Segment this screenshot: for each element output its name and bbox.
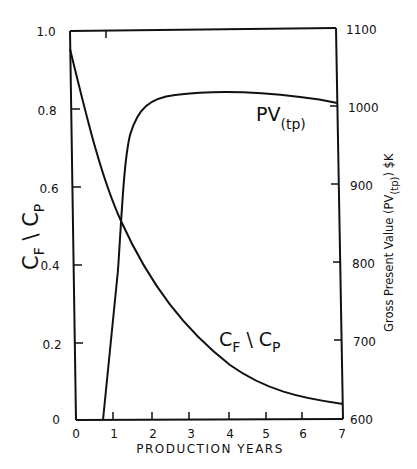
x-tick-label: 2 — [149, 427, 157, 441]
y-right-tick-label: 800 — [352, 257, 375, 271]
x-axis-title: PRODUCTION YEARS — [136, 442, 284, 456]
y-left-tick-label: 0.6 — [39, 182, 58, 196]
top-axis — [70, 28, 336, 31]
y-right-tick-labels: 600 700 800 900 1000 1100 — [346, 23, 379, 427]
x-tick-label: 7 — [338, 427, 346, 441]
y-left-tick-label: 0.4 — [40, 259, 59, 273]
x-tick-label: 6 — [299, 427, 307, 441]
x-tick-label: 4 — [226, 427, 234, 441]
x-tick-label: 0 — [72, 427, 80, 441]
chart-canvas: 0 1 2 3 4 5 6 7 PRODUCTION YEARS 0 0.2 0… — [0, 0, 417, 469]
x-ticks — [106, 30, 302, 420]
y-left-tick-label: 0.2 — [42, 338, 61, 352]
plot-frame — [70, 28, 343, 420]
y-left-tick-label: 0.8 — [37, 104, 56, 118]
right-axis — [336, 28, 343, 419]
y-right-tick-label: 900 — [350, 179, 373, 193]
x-tick-label: 5 — [262, 427, 270, 441]
x-tick-labels: 0 1 2 3 4 5 6 7 — [72, 427, 346, 441]
y-left-tick-label: 0 — [52, 413, 60, 427]
y-right-tick-label: 1100 — [346, 23, 377, 37]
y-left-tick-label: 1.0 — [36, 25, 55, 39]
y-left-axis-title: CF \ CP — [19, 204, 47, 270]
left-axis — [70, 31, 76, 420]
x-tick-label: 1 — [110, 427, 118, 441]
pv-curve-label: PV(tp) — [256, 103, 306, 132]
cf-cp-curve-label: CF \ CP — [219, 328, 281, 355]
bottom-axis — [76, 419, 343, 420]
cf-cp-curve — [70, 49, 343, 404]
y-right-tick-label: 700 — [353, 335, 376, 349]
y-right-tick-label: 600 — [350, 413, 373, 427]
y-right-axis-title: Gross Present Value (PV(tp)) $K — [382, 153, 400, 332]
y-right-tick-label: 1000 — [348, 101, 379, 115]
x-tick-label: 3 — [187, 427, 195, 441]
